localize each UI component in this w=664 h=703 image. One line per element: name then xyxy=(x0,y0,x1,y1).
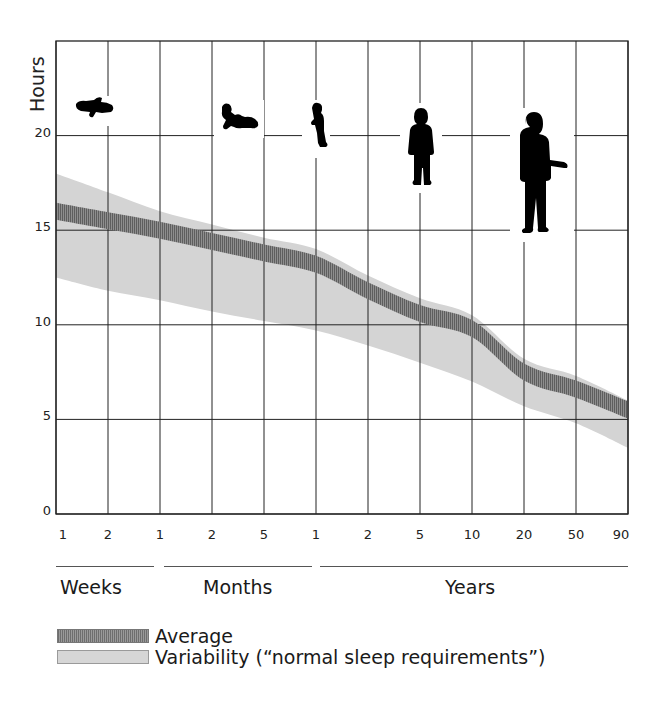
months-label: Months xyxy=(203,576,272,598)
x-tick-label: 1 xyxy=(59,527,67,542)
average-swatch-icon xyxy=(57,629,149,643)
x-tick-label: 2 xyxy=(104,527,112,542)
y-axis-ticks: 05101520 xyxy=(34,125,51,518)
months-rule xyxy=(164,566,312,567)
x-tick-label: 5 xyxy=(260,527,268,542)
x-tick-label: 2 xyxy=(364,527,372,542)
y-tick-label: 15 xyxy=(34,219,51,234)
variability-swatch-icon xyxy=(57,650,149,664)
x-axis-ticks: 1212512510205090 xyxy=(59,527,629,542)
y-tick-label: 20 xyxy=(34,125,51,140)
y-tick-label: 0 xyxy=(43,503,51,518)
legend-average-label: Average xyxy=(155,625,233,647)
x-tick-label: 1 xyxy=(312,527,320,542)
adult-silhouette-icon xyxy=(510,108,574,242)
legend-variability-label: Variability (“normal sleep requirements”… xyxy=(155,646,545,668)
years-label: Years xyxy=(445,576,495,598)
x-tick-label: 90 xyxy=(613,527,630,542)
legend-item-average: Average xyxy=(57,625,545,646)
x-tick-label: 50 xyxy=(568,527,585,542)
crawling-baby-silhouette-icon xyxy=(214,100,264,138)
legend-item-variability: Variability (“normal sleep requirements”… xyxy=(57,646,545,667)
sleep-chart: 05101520 1212512510205090 Hours xyxy=(0,0,664,620)
toddler-silhouette-icon xyxy=(302,100,330,158)
x-tick-label: 20 xyxy=(516,527,533,542)
weeks-label: Weeks xyxy=(60,576,122,598)
years-rule xyxy=(320,566,628,567)
y-tick-label: 5 xyxy=(43,408,51,423)
legend: Average Variability (“normal sleep requi… xyxy=(57,625,545,667)
x-tick-label: 5 xyxy=(416,527,424,542)
x-tick-label: 1 xyxy=(156,527,164,542)
child-silhouette-icon xyxy=(400,103,442,193)
y-axis-title: Hours xyxy=(26,56,48,112)
newborn-silhouette-icon xyxy=(72,96,122,126)
y-tick-label: 10 xyxy=(34,314,51,329)
weeks-rule xyxy=(56,566,154,567)
x-tick-label: 2 xyxy=(208,527,216,542)
x-tick-label: 10 xyxy=(464,527,481,542)
